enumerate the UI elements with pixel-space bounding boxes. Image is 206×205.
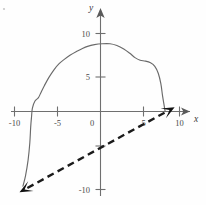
x-axis-label: x [193, 114, 199, 124]
y-tick-label-10: 10 [82, 29, 91, 39]
x-tick-label-10: 10 [175, 118, 184, 128]
x-tick-label--5: -5 [54, 118, 61, 128]
graph-figure: -10 -5 0 5 10 10 5 -10 x y [0, 0, 206, 205]
x-tick-label--10: -10 [9, 118, 20, 128]
scan-speck [3, 8, 5, 10]
plot-canvas: -10 -5 0 5 10 10 5 -10 x y [0, 0, 206, 205]
x-tick-label-0: 0 [90, 118, 94, 128]
dashed-asymptote-line [27, 111, 166, 188]
y-axis-label: y [88, 3, 94, 13]
y-tick-label-5: 5 [86, 72, 90, 82]
y-tick-label--10: -10 [79, 185, 90, 195]
